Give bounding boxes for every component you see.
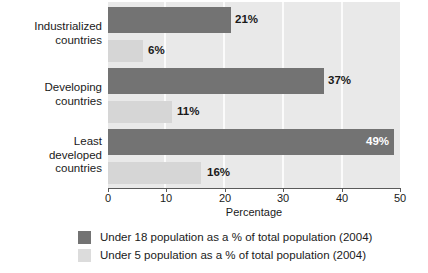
category-label-line: countries xyxy=(0,34,102,48)
category-label-developing: Developing countries xyxy=(0,81,102,108)
category-label-industrialized: Industrialized countries xyxy=(0,20,102,47)
bar-developing-under5 xyxy=(108,101,172,123)
x-axis-label-50: 50 xyxy=(385,192,415,205)
legend-item-under18: Under 18 population as a % of total popu… xyxy=(78,228,418,246)
bar-least-developed-under18 xyxy=(108,129,394,155)
bar-developing-under18 xyxy=(108,68,324,94)
bar-least-developed-under5 xyxy=(108,162,201,184)
x-axis-title: Percentage xyxy=(108,206,400,218)
category-label-line: Industrialized xyxy=(0,20,102,34)
gridline-30 xyxy=(282,2,284,188)
category-label-line: developed xyxy=(0,149,102,163)
bar-value-least-developed-under18: 49% xyxy=(366,136,389,148)
x-axis-label-30: 30 xyxy=(268,192,298,205)
category-label-line: Least xyxy=(0,135,102,149)
x-axis-label-0: 0 xyxy=(93,192,123,205)
bar-value-developing-under18: 37% xyxy=(328,75,351,87)
category-label-line: Developing xyxy=(0,81,102,95)
legend-swatch-icon xyxy=(78,249,91,262)
category-label-line: countries xyxy=(0,95,102,109)
legend-swatch-icon xyxy=(78,231,91,244)
bar-value-industrialized-under18: 21% xyxy=(235,14,258,26)
category-label-line: countries xyxy=(0,162,102,176)
x-axis-label-40: 40 xyxy=(327,192,357,205)
legend-item-under5: Under 5 population as a % of total popul… xyxy=(78,246,418,264)
bar-value-industrialized-under5: 6% xyxy=(148,45,165,57)
bar-industrialized-under5 xyxy=(108,40,143,62)
category-label-least-developed: Least developed countries xyxy=(0,135,102,176)
bar-chart: 21% 6% 37% 11% 49% 16% Industrialized co… xyxy=(0,0,428,273)
legend-label-under5: Under 5 population as a % of total popul… xyxy=(100,249,366,261)
x-axis-label-10: 10 xyxy=(151,192,181,205)
bar-value-developing-under5: 11% xyxy=(177,106,199,118)
legend-label-under18: Under 18 population as a % of total popu… xyxy=(100,231,372,243)
x-axis-line xyxy=(108,188,401,189)
gridline-40 xyxy=(341,2,343,188)
bar-value-least-developed-under5: 16% xyxy=(207,167,230,179)
chart-legend: Under 18 population as a % of total popu… xyxy=(78,228,418,264)
x-axis-label-20: 20 xyxy=(210,192,240,205)
plot-area xyxy=(108,2,400,188)
bar-industrialized-under18 xyxy=(108,7,231,33)
